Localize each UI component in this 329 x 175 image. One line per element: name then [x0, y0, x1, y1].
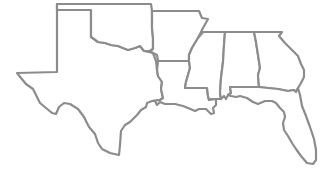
state-florida[interactable] [228, 87, 316, 164]
state-georgia[interactable] [254, 32, 304, 92]
southern-states-map [0, 0, 329, 175]
map-svg [0, 0, 329, 175]
